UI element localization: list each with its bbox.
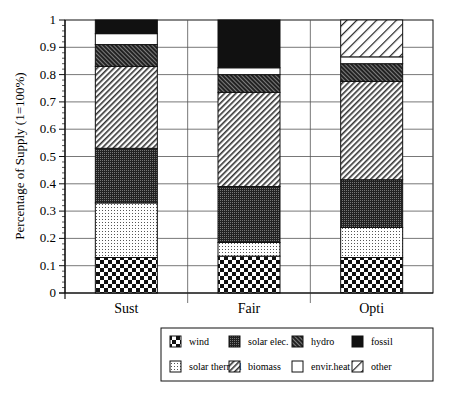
segment-envir-heat: [95, 34, 157, 45]
legend-swatch: [292, 336, 303, 347]
segment-biomass: [95, 66, 157, 148]
y-tick-label: 1: [50, 12, 57, 27]
x-tick-label: Sust: [114, 301, 138, 316]
stacked-bar-chart: 00.10.20.30.40.50.60.70.80.91 SustFairOp…: [0, 0, 449, 396]
y-tick-label: 0.6: [40, 121, 57, 136]
segment-solar-elec: [341, 180, 403, 228]
y-tick-label: 0.1: [40, 258, 56, 273]
bar-opti: [341, 20, 403, 293]
segment-solar-elec: [95, 148, 157, 203]
x-tick-label: Opti: [359, 301, 384, 316]
legend-label: fossil: [371, 336, 393, 347]
segment-fossil: [218, 20, 280, 68]
segment-fossil: [95, 20, 157, 34]
legend-label: biomass: [248, 361, 281, 372]
y-tick-label: 0: [50, 285, 57, 300]
legend-item: solar elec.: [229, 336, 289, 347]
segment-solar-thermal: [341, 227, 403, 257]
legend-item: envir.heat: [292, 361, 350, 372]
x-axis: SustFairOpti: [114, 301, 384, 316]
legend-swatch: [352, 336, 363, 347]
legend: windsolar elec.hydrofossilsolar thermalb…: [161, 328, 433, 381]
legend-label: envir.heat: [311, 361, 350, 372]
segment-envir-heat: [218, 68, 280, 75]
legend-swatch: [170, 336, 181, 347]
segment-wind: [95, 258, 157, 293]
segment-other: [341, 20, 403, 57]
segment-wind: [341, 258, 403, 293]
y-axis-label: Percentage of Supply (1=100%): [12, 72, 27, 239]
legend-label: other: [371, 361, 392, 372]
legend-item: wind: [170, 336, 209, 347]
legend-swatch: [229, 336, 240, 347]
segment-biomass: [341, 81, 403, 179]
segment-hydro: [341, 64, 403, 82]
x-tick-label: Fair: [238, 301, 261, 316]
legend-swatch: [292, 361, 303, 372]
legend-label: solar elec.: [248, 336, 289, 347]
legend-label: hydro: [311, 336, 334, 347]
bar-sust: [95, 20, 157, 293]
bar-fair: [218, 20, 280, 293]
legend-swatch: [352, 361, 363, 372]
segment-biomass: [218, 92, 280, 186]
bars: [95, 20, 402, 293]
legend-swatch: [170, 361, 181, 372]
segment-solar-thermal: [95, 203, 157, 258]
segment-envir-heat: [341, 57, 403, 64]
legend-swatch: [229, 361, 240, 372]
y-tick-label: 0.4: [40, 176, 57, 191]
legend-item: fossil: [352, 336, 393, 347]
segment-hydro: [95, 45, 157, 67]
y-tick-label: 0.8: [40, 67, 56, 82]
segment-wind: [218, 256, 280, 293]
y-tick-label: 0.9: [40, 39, 56, 54]
segment-hydro: [218, 75, 280, 93]
segment-solar-thermal: [218, 242, 280, 256]
y-tick-label: 0.3: [40, 203, 56, 218]
y-tick-label: 0.5: [40, 149, 56, 164]
y-tick-label: 0.2: [40, 230, 56, 245]
legend-label: wind: [189, 336, 209, 347]
y-tick-label: 0.7: [40, 94, 57, 109]
legend-item: hydro: [292, 336, 334, 347]
segment-solar-elec: [218, 187, 280, 243]
legend-item: biomass: [229, 361, 281, 372]
legend-item: other: [352, 361, 392, 372]
